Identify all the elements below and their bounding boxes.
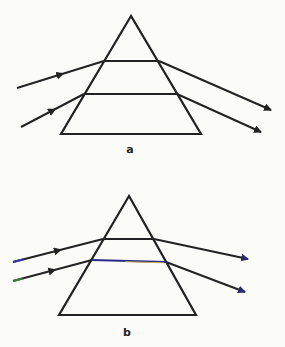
diagram-b [13, 196, 248, 315]
outgoing-ray-1 [159, 61, 271, 110]
incoming-ray-tint-1 [13, 259, 24, 262]
diagram-b-label: b [123, 326, 131, 339]
incoming-ray-1 [13, 239, 103, 262]
prism-triangle [59, 196, 196, 315]
outgoing-ray-1 [154, 239, 248, 259]
diagram-a [17, 16, 271, 134]
prism-diagram-canvas [0, 0, 285, 347]
prism-triangle [61, 16, 201, 134]
outgoing-ray-2 [166, 262, 245, 292]
incoming-ray-tint-2 [13, 278, 22, 281]
diagram-a-label: a [126, 143, 133, 156]
